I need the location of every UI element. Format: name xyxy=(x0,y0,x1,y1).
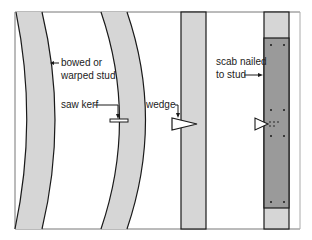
scab-board xyxy=(264,38,289,208)
label-wedge: wedge xyxy=(145,99,176,110)
saw-kerf-cut xyxy=(110,119,128,122)
label-scab-1: scab nailed xyxy=(216,56,267,67)
label-saw-kerf: saw kerf xyxy=(61,99,98,110)
label-bowed-2: warped stud xyxy=(60,70,115,81)
stud-repair-diagram: bowed or warped stud saw kerf wedge scab… xyxy=(0,0,312,240)
label-bowed-1: bowed or xyxy=(61,57,103,68)
label-scab-2: to stud xyxy=(216,69,246,80)
